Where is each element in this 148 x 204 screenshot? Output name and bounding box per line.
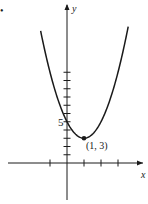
x-axis-arrow — [137, 161, 143, 166]
points: (1, 3) — [82, 136, 108, 152]
y-tick-label: 5 — [58, 116, 64, 128]
axes — [8, 4, 143, 200]
ticks: 5 — [50, 72, 118, 166]
vertex-label: (1, 3) — [86, 140, 108, 152]
parabola-curve — [41, 27, 129, 139]
stray-mark: • — [0, 5, 4, 16]
x-axis-label: x — [140, 169, 146, 180]
parabola-chart: • 5 (1, 3) x y — [0, 0, 148, 204]
y-axis-arrow — [65, 4, 70, 10]
y-axis-label: y — [71, 3, 77, 14]
